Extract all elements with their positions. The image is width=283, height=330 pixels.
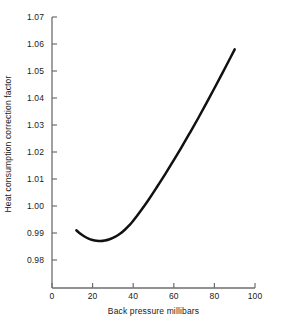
data-series-group [76,49,234,241]
data-line [76,49,234,241]
plot-area [0,0,283,330]
axis-ticks [52,17,255,288]
chart-figure: Heat consumption correction factor 0.980… [0,0,283,330]
axis-spines [52,17,255,288]
x-axis-label: Back pressure millibars [52,306,255,316]
